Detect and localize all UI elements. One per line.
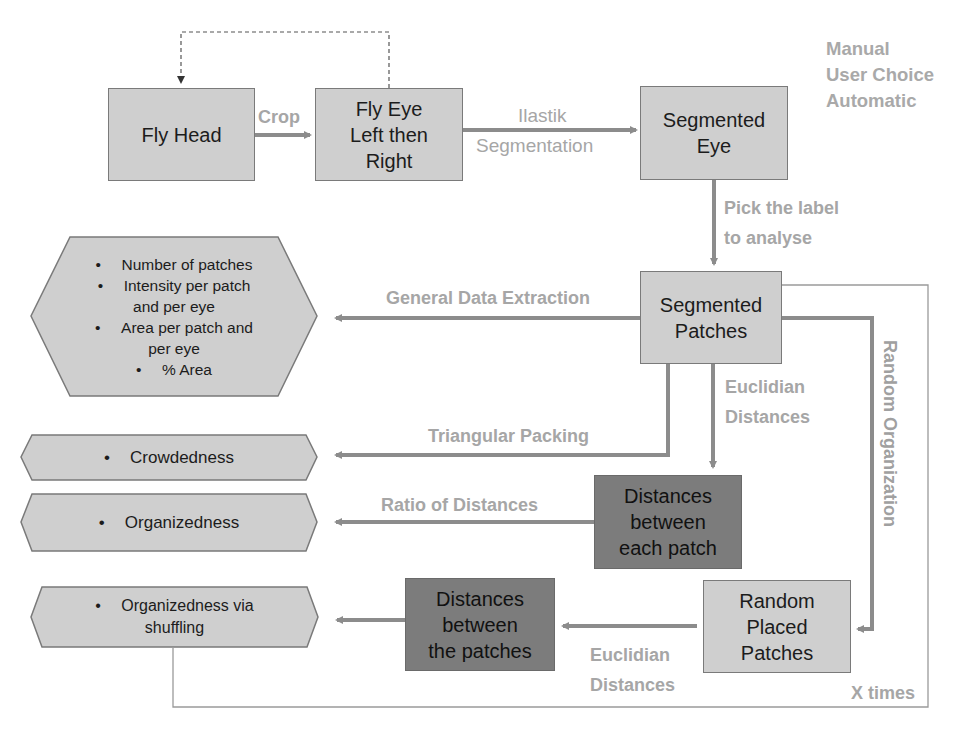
node-label: Fly Head [141, 122, 221, 148]
node-label: Patches [741, 640, 813, 666]
bullet-icon: • [104, 447, 130, 468]
node-label: Distances [436, 586, 524, 612]
node-label: Eye [697, 133, 731, 159]
node-label: Segmented [660, 292, 762, 318]
node-random-placed-patches: Random Placed Patches [703, 580, 851, 673]
node-label: Distances [624, 483, 712, 509]
bullet-icon: • [95, 595, 121, 617]
bullet-icon: • [99, 512, 125, 533]
node-label: between [630, 509, 706, 535]
output-crowdedness: •Crowdedness [20, 434, 318, 481]
bullet-icon: • [98, 275, 124, 296]
output-item-continued: per eye [148, 338, 200, 359]
node-label: between [442, 612, 518, 638]
edge-label-random-organization: Random Organization [879, 340, 900, 527]
node-label: the patches [428, 638, 531, 664]
node-label: Right [366, 148, 413, 174]
output-item: Number of patches [122, 254, 253, 275]
edge-label-general-data-extraction: General Data Extraction [386, 286, 590, 310]
node-label: each patch [619, 535, 717, 561]
output-organizedness-via-shuffling: •Organizedness via shuffling [30, 586, 319, 648]
bullet-icon: • [96, 254, 122, 275]
edge-label-to-analyse: to analyse [724, 226, 812, 250]
node-distances-between-the-patches: Distances between the patches [405, 578, 555, 671]
bullet-icon: • [95, 317, 121, 338]
output-item-continued: shuffling [145, 617, 204, 639]
edge-label-segmentation: Segmentation [476, 134, 593, 158]
edge-label-ilastik: Ilastik [518, 104, 567, 128]
edge-label-distances-random: Distances [590, 673, 675, 697]
node-fly-eye: Fly Eye Left then Right [315, 88, 463, 181]
node-label: Placed [746, 614, 807, 640]
edge-label-triangular-packing: Triangular Packing [428, 424, 589, 448]
output-item: % Area [162, 359, 212, 380]
node-label: Fly Eye [356, 96, 423, 122]
node-fly-head: Fly Head [108, 88, 255, 181]
edge-label-crop: Crop [258, 105, 300, 129]
legend: Manual User Choice Automatic [826, 36, 934, 114]
legend-item-manual: Manual [826, 36, 934, 62]
node-label: Segmented [663, 107, 765, 133]
node-label: Random [739, 588, 815, 614]
output-item: Organizedness via [121, 595, 254, 617]
node-segmented-patches: Segmented Patches [640, 271, 782, 364]
edge-label-euclidian: Euclidian [725, 375, 805, 399]
edge-label-pick-label: Pick the label [724, 196, 839, 220]
edge-label-ratio-of-distances: Ratio of Distances [381, 493, 538, 517]
edge-label-distances: Distances [725, 405, 810, 429]
output-item-continued: and per eye [133, 296, 215, 317]
dashed-loop-arrow [181, 32, 389, 88]
flowchart-canvas: Manual User Choice Automatic Fly Head Fl… [0, 0, 972, 729]
output-item: Crowdedness [130, 447, 234, 468]
legend-item-user-choice: User Choice [826, 62, 934, 88]
node-label: Patches [675, 318, 747, 344]
output-organizedness: •Organizedness [20, 493, 318, 552]
edge-label-x-times: X times [851, 681, 915, 705]
legend-item-automatic: Automatic [826, 88, 934, 114]
node-label: Left then [350, 122, 428, 148]
output-item: Area per patch and [121, 317, 253, 338]
output-general-data: •Number of patches •Intensity per patch … [30, 236, 318, 397]
node-segmented-eye: Segmented Eye [640, 86, 788, 180]
bullet-icon: • [136, 359, 162, 380]
output-item: Organizedness [125, 512, 239, 533]
node-distances-between-each-patch: Distances between each patch [594, 475, 742, 569]
output-item: Intensity per patch [124, 275, 251, 296]
edge-label-euclidian-random: Euclidian [590, 643, 670, 667]
